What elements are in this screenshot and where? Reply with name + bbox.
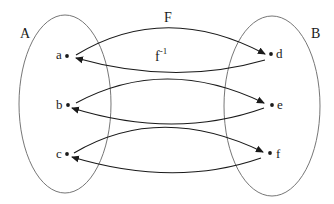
bijection-diagram: A B F f-1 a b c d e f [0,0,334,204]
element-d: d [276,46,283,61]
set-b-label: B [311,26,320,41]
element-f: f [276,146,281,161]
dot-a [65,54,69,58]
element-e: e [277,97,283,112]
inverse-exponent: -1 [160,46,168,56]
dot-b [66,103,70,107]
dot-f [268,151,272,155]
arrow-c-to-f [74,127,263,153]
dot-d [269,52,273,56]
arrow-a-to-d [76,28,265,55]
element-c: c [56,146,62,161]
arrow-d-to-a [76,58,265,73]
element-a: a [56,47,62,62]
arrow-f-to-c [72,157,261,173]
arrow-b-to-e [76,79,264,103]
dot-e [270,103,274,107]
set-a-ellipse [19,15,111,193]
dot-c [65,152,69,156]
arrow-e-to-b [72,108,264,124]
element-b: b [56,97,63,112]
set-a-label: A [20,26,31,41]
function-label-F: F [164,10,172,25]
inverse-function-label: f-1 [155,46,167,64]
